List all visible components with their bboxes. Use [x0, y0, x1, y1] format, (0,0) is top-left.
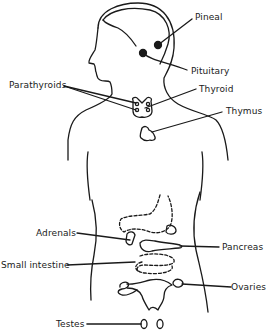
pancreas-gland	[140, 240, 182, 252]
adrenal-left	[126, 232, 135, 245]
label-thyroid: Thyroid	[199, 84, 233, 94]
label-small-intestine: Small intestine	[1, 260, 70, 270]
pancreas-leader	[180, 246, 219, 247]
thymus-leader	[152, 112, 222, 132]
parathyroids-leader-1	[64, 86, 136, 103]
pituitary-leader	[143, 53, 187, 70]
thyroid-leader	[145, 89, 196, 108]
ovary-right	[173, 279, 183, 287]
head-outline	[98, 3, 228, 160]
label-testes: Testes	[56, 319, 85, 329]
label-pancreas: Pancreas	[222, 242, 263, 252]
testis-right	[157, 320, 163, 329]
label-parathyroids: Parathyroids	[9, 80, 66, 90]
parathyroid-lr	[146, 108, 149, 111]
endocrine-diagram	[0, 0, 266, 335]
small-intestine	[136, 254, 174, 274]
label-ovaries: Ovaries	[231, 282, 266, 292]
pineal-leader	[158, 19, 192, 45]
right-torso	[194, 192, 208, 312]
thyroid-gland	[133, 97, 152, 117]
right-arm-line	[200, 152, 203, 200]
uterus	[127, 279, 172, 310]
adrenals-leader	[77, 233, 130, 240]
stomach-outline	[120, 195, 173, 233]
thymus-gland	[140, 127, 155, 141]
parathyroid-ur	[146, 102, 149, 105]
brain-base	[103, 20, 136, 46]
parathyroids-leader-2	[64, 86, 136, 110]
left-torso	[91, 200, 97, 300]
testis-left	[141, 320, 147, 329]
small-intestine-leader	[67, 262, 135, 265]
left-arm-line	[87, 152, 90, 200]
label-thymus: Thymus	[226, 106, 262, 116]
label-adrenals: Adrenals	[36, 228, 76, 238]
ovaries-leader	[182, 284, 231, 287]
adrenal-right	[166, 225, 176, 234]
label-pituitary: Pituitary	[191, 66, 229, 76]
label-pineal: Pineal	[195, 12, 223, 22]
brain-outline	[103, 8, 169, 64]
